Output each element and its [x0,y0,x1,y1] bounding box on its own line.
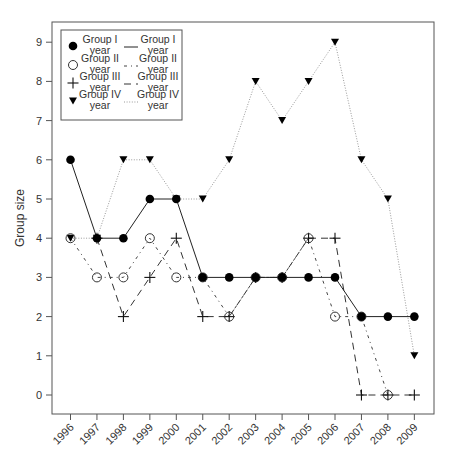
x-axis: 1996199719981999200020012002200320042005… [50,414,420,447]
data-point [356,390,367,401]
x-tick-label: 2008 [368,421,394,447]
y-tick-label: 1 [36,350,42,362]
data-point [172,195,181,204]
data-point [357,312,366,321]
legend-label: year [148,99,169,111]
x-tick-label: 2002 [209,421,235,447]
y-tick-label: 6 [36,154,42,166]
data-point [225,156,233,163]
data-point [252,78,260,85]
x-tick-label: 2005 [288,421,314,447]
y-tick-label: 0 [36,389,42,401]
legend-marker-icon [69,42,78,51]
y-tick-label: 7 [36,115,42,127]
x-tick-label: 2007 [341,421,367,447]
x-tick-label: 1998 [103,421,129,447]
y-tick-label: 2 [36,311,42,323]
y-axis: 0123456789 [36,36,52,401]
y-tick-label: 8 [36,75,42,87]
data-point [144,272,155,283]
data-point [251,273,260,282]
x-tick-label: 2009 [394,421,420,447]
data-point [384,196,392,203]
line-chart: 0123456789 19961997199819992000200120022… [0,0,450,466]
data-point [304,273,313,282]
x-tick-label: 1996 [50,421,76,447]
data-point [303,233,314,244]
data-point [199,196,207,203]
data-point [331,273,340,282]
x-tick-label: 2003 [235,421,261,447]
data-point [357,156,365,163]
data-point [278,117,286,124]
data-point [305,78,313,85]
data-point [409,390,420,401]
legend-label: year [90,99,111,111]
x-tick-label: 2001 [182,421,208,447]
data-point [382,390,393,401]
y-tick-label: 3 [36,271,42,283]
x-tick-label: 2006 [315,421,341,447]
data-point [171,233,182,244]
y-tick-label: 4 [36,232,42,244]
y-tick-label: 9 [36,36,42,48]
data-point [198,273,207,282]
data-point [410,352,418,359]
data-point [278,273,287,282]
data-point [93,234,102,243]
data-point [384,312,393,321]
data-point [224,311,235,322]
x-tick-label: 1999 [129,421,155,447]
data-point [119,234,128,243]
data-point [66,156,75,165]
data-point [197,311,208,322]
x-tick-label: 1997 [77,421,103,447]
data-point [146,195,155,204]
data-point [225,273,234,282]
y-axis-title: Group size [13,189,27,247]
data-point [330,233,341,244]
legend: Group IyearGroup IIyearGroup IIIyearGrou… [61,30,182,120]
data-point [410,312,419,321]
data-point [331,39,339,46]
x-tick-label: 2004 [262,421,288,447]
data-point [118,311,129,322]
y-tick-label: 5 [36,193,42,205]
x-tick-label: 2000 [156,421,182,447]
